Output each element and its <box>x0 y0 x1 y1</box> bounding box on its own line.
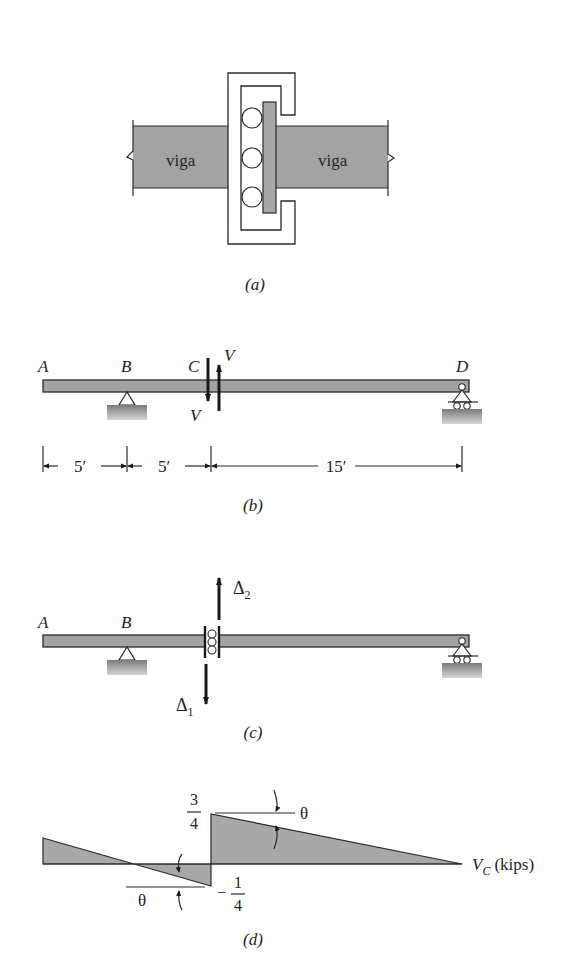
figure-a-caption: (a) <box>245 275 265 294</box>
dimension-lines <box>43 446 462 472</box>
delta-1-label: Δ1 <box>176 695 194 719</box>
figure-d-influence-line: 3 4 − 1 4 θ θ VC(kips) (d) <box>43 790 534 949</box>
influence-region-cd <box>211 814 462 864</box>
beam <box>43 380 469 392</box>
break-line-icon <box>127 120 133 196</box>
inner-plate <box>263 102 276 213</box>
angle-arrow-icon <box>179 891 182 910</box>
influence-line-diagram: viga viga (a) A B C D V V <box>0 0 580 956</box>
shear-release-rollers <box>205 626 219 658</box>
beam <box>43 635 469 647</box>
value-top-denominator: 4 <box>190 815 198 832</box>
value-bottom-denominator: 4 <box>234 897 242 914</box>
roller-icon <box>242 108 262 128</box>
influence-region-ab <box>43 838 134 864</box>
dimension-ab: 5′ <box>74 457 86 476</box>
angle-arrow-icon <box>274 790 277 811</box>
angle-label-bottom: θ <box>138 891 146 910</box>
value-bottom-numerator: 1 <box>234 874 242 891</box>
figure-b-caption: (b) <box>243 496 263 515</box>
dimension-bc: 5′ <box>158 457 170 476</box>
label-a: A <box>37 613 49 632</box>
shear-label-top: V <box>224 346 237 365</box>
value-bottom-sign: − <box>217 884 226 901</box>
label-d: D <box>455 357 469 376</box>
label-b: B <box>121 613 132 632</box>
shear-label-bottom: V <box>190 406 203 425</box>
label-c: C <box>188 357 200 376</box>
figure-b-beam: A B C D V V 5′ 5′ 15′ (b) <box>37 346 482 515</box>
figure-d-caption: (d) <box>243 930 263 949</box>
roller-icon <box>242 187 262 207</box>
beam-right-label: viga <box>318 151 348 170</box>
delta-2-label: Δ2 <box>233 578 251 602</box>
pin-support-b <box>107 392 147 420</box>
label-a: A <box>37 357 49 376</box>
figure-c-caption: (c) <box>244 723 263 742</box>
figure-a-shear-connection: viga viga (a) <box>127 73 394 294</box>
axis-label: VC(kips) <box>472 855 534 878</box>
pin-support-b <box>107 647 147 675</box>
angle-label-top: θ <box>300 804 308 823</box>
beam-left-label: viga <box>166 151 196 170</box>
break-line-icon <box>388 120 394 196</box>
influence-region-bc <box>134 864 211 886</box>
figure-c-beam: A B Δ2 Δ1 (c) <box>37 578 482 742</box>
roller-icon <box>242 148 262 168</box>
value-top-numerator: 3 <box>190 791 198 808</box>
label-b: B <box>121 357 132 376</box>
dimension-cd: 15′ <box>326 457 347 476</box>
